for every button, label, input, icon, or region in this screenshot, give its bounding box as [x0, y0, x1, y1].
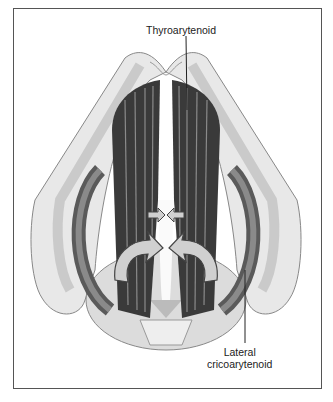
lcric-label-line2: cricoarytenoid	[207, 358, 272, 370]
thyroarytenoid-label: Thyroarytenoid	[146, 24, 216, 36]
lateral-cricoarytenoid-label: Lateral cricoarytenoid	[207, 346, 272, 370]
larynx-illustration	[0, 0, 333, 402]
lcric-label-line1: Lateral	[207, 346, 272, 358]
